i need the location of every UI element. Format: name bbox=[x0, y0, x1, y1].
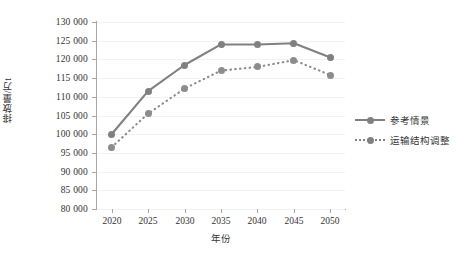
y-tick-label: 90 000 bbox=[24, 167, 88, 177]
x-tick bbox=[257, 209, 258, 213]
x-tick bbox=[330, 209, 331, 213]
y-tick-label: 110 000 bbox=[24, 92, 88, 102]
data-point bbox=[218, 67, 225, 74]
legend-label-1: 运输结构调整 bbox=[390, 133, 450, 147]
data-point bbox=[108, 144, 115, 151]
x-tick bbox=[221, 209, 222, 213]
data-point bbox=[145, 110, 152, 117]
y-tick-label: 115 000 bbox=[24, 73, 88, 83]
data-point bbox=[145, 88, 152, 95]
data-point bbox=[108, 131, 115, 138]
series-lines bbox=[97, 22, 345, 209]
x-tick bbox=[185, 209, 186, 213]
y-axis-title: 排放量/万t bbox=[2, 78, 16, 123]
y-tick-label: 130 000 bbox=[24, 17, 88, 27]
y-tick-label: 105 000 bbox=[24, 111, 88, 121]
data-point bbox=[218, 41, 225, 48]
data-point bbox=[181, 62, 188, 69]
legend-label-0: 参考情景 bbox=[390, 113, 430, 127]
legend-swatch-solid-icon bbox=[355, 114, 385, 126]
data-point bbox=[254, 41, 261, 48]
legend-swatch-dotted-icon bbox=[355, 134, 385, 146]
x-tick bbox=[294, 209, 295, 213]
x-tick bbox=[148, 209, 149, 213]
y-tick-label: 95 000 bbox=[24, 148, 88, 158]
legend-item-0[interactable]: 参考情景 bbox=[355, 110, 463, 130]
x-tick bbox=[112, 209, 113, 213]
x-tick-label: 2050 bbox=[308, 216, 352, 227]
x-axis-title: 年份 bbox=[97, 231, 345, 245]
data-point bbox=[327, 72, 334, 79]
y-tick-label: 120 000 bbox=[24, 54, 88, 64]
series-line-reference bbox=[112, 43, 331, 134]
y-tick-label: 125 000 bbox=[24, 36, 88, 46]
y-tick bbox=[92, 209, 97, 210]
y-tick-label: 100 000 bbox=[24, 129, 88, 139]
data-point bbox=[327, 54, 334, 61]
legend-item-1[interactable]: 运输结构调整 bbox=[355, 130, 463, 150]
plot-area bbox=[97, 22, 345, 209]
chart-screenshot: 排放量/万t 130 000125 000120 000115 000110 0… bbox=[0, 0, 465, 275]
y-tick-label: 80 000 bbox=[24, 204, 88, 214]
chart-legend: 参考情景 运输结构调整 bbox=[355, 110, 463, 150]
y-tick-label: 85 000 bbox=[24, 185, 88, 195]
